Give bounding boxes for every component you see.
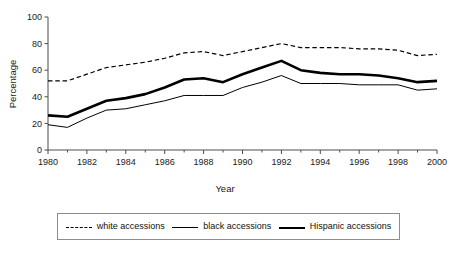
- svg-text:1982: 1982: [77, 157, 97, 167]
- y-axis-title: Percentage: [7, 60, 18, 109]
- svg-text:80: 80: [32, 39, 42, 49]
- legend-item-black-accessions: black accessions: [172, 222, 271, 231]
- line-chart-svg: 020406080100 198019821984198619881990199…: [0, 0, 450, 200]
- x-axis-tick-labels: 1980198219841986198819901992199419961998…: [38, 157, 447, 167]
- legend-item-hispanic-accessions: Hispanic accessions: [279, 222, 392, 231]
- svg-text:1986: 1986: [155, 157, 175, 167]
- svg-text:1996: 1996: [349, 157, 369, 167]
- thick-line-swatch-icon: [279, 223, 305, 231]
- svg-text:1988: 1988: [194, 157, 214, 167]
- plot-area: 020406080100 198019821984198619881990199…: [0, 0, 450, 200]
- svg-text:20: 20: [32, 119, 42, 129]
- svg-text:1984: 1984: [116, 157, 136, 167]
- x-axis-title-wrap: Year: [0, 178, 450, 196]
- svg-text:2000: 2000: [427, 157, 447, 167]
- legend: white accessions black accessions Hispan…: [57, 213, 400, 240]
- svg-text:1992: 1992: [271, 157, 291, 167]
- legend-label-hispanic-accessions: Hispanic accessions: [310, 222, 392, 231]
- legend-items: white accessions black accessions Hispan…: [58, 214, 399, 239]
- series-line-hispanic-accessions: [48, 61, 437, 117]
- legend-item-white-accessions: white accessions: [66, 222, 165, 231]
- thin-line-swatch-icon: [172, 223, 198, 231]
- svg-text:1990: 1990: [232, 157, 252, 167]
- dashed-line-swatch-icon: [66, 223, 92, 231]
- x-axis-title: Year: [215, 183, 234, 194]
- chart-figure: 020406080100 198019821984198619881990199…: [0, 0, 450, 254]
- axis-lines: [45, 17, 438, 154]
- data-series-group: [48, 44, 437, 128]
- svg-text:1998: 1998: [388, 157, 408, 167]
- svg-text:1980: 1980: [38, 157, 58, 167]
- svg-text:100: 100: [27, 12, 42, 22]
- svg-text:40: 40: [32, 92, 42, 102]
- legend-label-white-accessions: white accessions: [97, 222, 165, 231]
- svg-text:60: 60: [32, 65, 42, 75]
- y-axis-tick-labels: 020406080100: [27, 12, 42, 155]
- svg-text:0: 0: [37, 145, 42, 155]
- svg-text:1994: 1994: [310, 157, 330, 167]
- legend-label-black-accessions: black accessions: [203, 222, 271, 231]
